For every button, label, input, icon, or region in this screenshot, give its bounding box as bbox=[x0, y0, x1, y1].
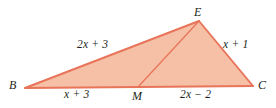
side-label-ec: x + 1 bbox=[223, 39, 248, 51]
side-label-mc: 2x − 2 bbox=[180, 89, 211, 101]
vertex-label-b: B bbox=[9, 79, 17, 91]
vertex-label-m: M bbox=[132, 90, 142, 102]
triangle-bec-fill bbox=[25, 21, 253, 88]
vertex-label-e: E bbox=[194, 6, 202, 18]
side-label-bm: x + 3 bbox=[64, 89, 89, 101]
side-label-be: 2x + 3 bbox=[77, 39, 108, 51]
vertex-label-c: C bbox=[258, 79, 266, 91]
geometry-diagram: B E C M 2x + 3 x + 1 x + 3 2x − 2 bbox=[0, 0, 276, 108]
